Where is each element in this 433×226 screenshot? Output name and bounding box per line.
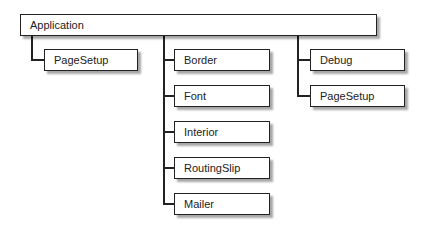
node-label: Mailer [184,198,214,210]
node-border: Border [174,49,270,71]
connector [31,59,44,61]
connector [297,59,310,61]
connector [297,95,310,97]
node-routingslip: RoutingSlip [174,157,270,179]
node-label: RoutingSlip [184,162,240,174]
node-application: Application [20,14,377,36]
node-mailer: Mailer [174,193,270,215]
connector [163,167,174,169]
node-label: Border [184,54,217,66]
node-label: Application [30,19,84,31]
node-label: Font [184,90,206,102]
connector [163,203,174,205]
node-pagesetup-2: PageSetup [310,85,405,107]
node-label: PageSetup [320,90,374,102]
node-font: Font [174,85,270,107]
node-label: PageSetup [54,54,108,66]
node-label: Debug [320,54,352,66]
connector [163,95,174,97]
connector [163,131,174,133]
node-interior: Interior [174,121,270,143]
node-debug: Debug [310,49,405,71]
connector [163,59,174,61]
node-pagesetup: PageSetup [44,49,138,71]
node-label: Interior [184,126,218,138]
connector [31,35,33,60]
connector [297,35,299,96]
